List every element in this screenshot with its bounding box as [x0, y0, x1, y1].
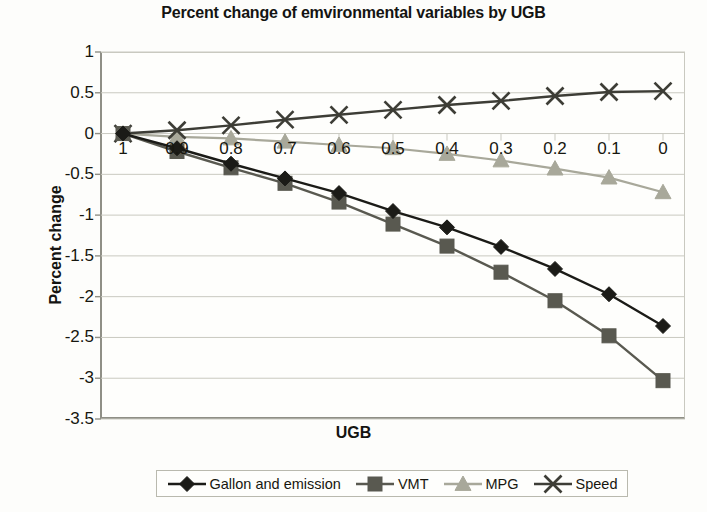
x-tick-label: 0.2	[528, 139, 582, 159]
x-tick-label: 0.7	[258, 139, 312, 159]
legend-label: VMT	[397, 476, 429, 492]
legend-item-gallon-and-emission[interactable]: Gallon and emission	[167, 474, 341, 494]
x-tick-label: 0	[636, 139, 690, 159]
legend-label: Speed	[575, 476, 618, 492]
x-tick-label: 0.6	[312, 139, 366, 159]
chart-container: Percent change of emvironmental variable…	[0, 0, 707, 512]
x-tick-label: 0.8	[204, 139, 258, 159]
square-icon	[355, 474, 395, 494]
legend-label: MPG	[485, 476, 519, 492]
cross-icon	[533, 474, 573, 494]
y-tick-label: 0	[52, 124, 94, 144]
x-tick-label: 1	[96, 139, 150, 159]
legend-item-vmt[interactable]: VMT	[355, 474, 429, 494]
x-tick-label: 0.4	[420, 139, 474, 159]
x-tick-label: 0.1	[582, 139, 636, 159]
x-tick-label: 0.5	[366, 139, 420, 159]
y-tick-label: 0.5	[52, 83, 94, 103]
x-tick-label: 0.3	[474, 139, 528, 159]
chart-legend: Gallon and emissionVMTMPGSpeed	[156, 470, 628, 497]
legend-item-mpg[interactable]: MPG	[443, 474, 519, 494]
y-axis-title: Percent change	[47, 165, 65, 325]
y-tick-label: -2.5	[52, 327, 94, 347]
diamond-icon	[167, 474, 207, 494]
x-tick-label: 0.9	[150, 139, 204, 159]
series-vmt	[116, 127, 670, 388]
x-axis-title: UGB	[0, 424, 707, 442]
legend-item-speed[interactable]: Speed	[533, 474, 618, 494]
y-tick-label: 1	[52, 42, 94, 62]
y-tick-label: -3	[52, 368, 94, 388]
series-lines	[115, 83, 672, 388]
legend-label: Gallon and emission	[209, 476, 341, 492]
triangle-icon	[443, 474, 483, 494]
